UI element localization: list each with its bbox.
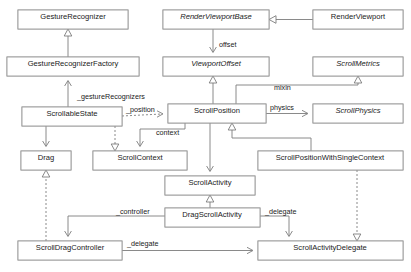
edge-scrollablestate-to-drag	[43, 126, 50, 147]
edge-label-physics: physics	[270, 103, 294, 112]
class-label: ScrollPhysics	[335, 106, 380, 115]
class-label: ScrollContext	[117, 153, 163, 162]
edge-label-delegate-drag: _delegate	[264, 207, 297, 216]
class-label: RenderViewportBase	[180, 12, 252, 21]
edge-scrollposition-to-scrollactivity	[207, 123, 214, 172]
edge-spwsc-implements-delegate	[353, 170, 361, 241]
edge-label-position: _position	[125, 105, 155, 114]
class-label: GestureRecognizer	[40, 12, 106, 21]
class-box-scrollable-state[interactable]: ScrollableState	[22, 107, 122, 126]
class-box-gesture-recognizer[interactable]: GestureRecognizer	[18, 10, 128, 29]
class-box-viewport-offset[interactable]: ViewportOffset	[163, 57, 269, 76]
edge-factory-to-recognizer	[64, 29, 72, 57]
edge-label-delegate-controller: _delegate	[126, 239, 159, 248]
edge-dragscrollactivity-to-scrollactivity	[206, 195, 214, 208]
edge-scrollablestate-implements-scrollcontext	[111, 126, 119, 151]
class-label: ScrollMetrics	[336, 59, 380, 68]
class-box-scroll-position[interactable]: ScrollPosition	[168, 104, 266, 123]
class-box-scroll-physics[interactable]: ScrollPhysics	[313, 104, 403, 123]
edge-label-offset: offset	[219, 40, 236, 49]
class-label: GestureRecognizerFactory	[28, 59, 119, 68]
edge-base-to-viewportoffset	[210, 29, 217, 53]
edge-label-controller: _controller	[115, 207, 150, 216]
class-label: RenderViewport	[331, 12, 386, 21]
class-box-scroll-activity[interactable]: ScrollActivity	[165, 176, 255, 195]
class-label: Drag	[38, 153, 54, 162]
class-box-scroll-metrics[interactable]: ScrollMetrics	[313, 57, 403, 76]
edge-dragscrollactivity-to-delegate	[260, 216, 292, 237]
class-label: ScrollableState	[46, 109, 97, 118]
class-box-render-viewport[interactable]: RenderViewport	[313, 10, 403, 29]
class-label: ScrollDragController	[36, 243, 105, 252]
class-label: ScrollPositionWithSingleContext	[276, 153, 385, 162]
class-box-scroll-context[interactable]: ScrollContext	[93, 151, 187, 170]
class-box-gesture-recognizer-factory[interactable]: GestureRecognizerFactory	[7, 57, 139, 76]
class-label: ScrollActivityDelegate	[293, 243, 366, 252]
edge-scrolldragcontroller-implements-drag	[42, 170, 50, 241]
edge-renderviewport-to-base	[269, 16, 313, 24]
edge-label-gesture-recognizers: _gestureRecognizers	[76, 92, 145, 101]
edge-scrollposition-to-scrollmetrics	[236, 76, 362, 104]
diagram-canvas: offset mixin _gestureRecognizers _positi…	[0, 0, 411, 272]
edge-scrollablestate-to-factory	[65, 81, 72, 108]
edge-dragscrollactivity-to-controller	[65, 216, 165, 237]
class-label: DragScrollActivity	[182, 210, 242, 219]
class-label: ScrollPosition	[194, 106, 240, 115]
class-label: ViewportOffset	[191, 59, 242, 68]
class-box-render-viewport-base[interactable]: RenderViewportBase	[163, 10, 269, 29]
class-box-scroll-position-with-single-context[interactable]: ScrollPositionWithSingleContext	[258, 151, 403, 170]
classes-layer: GestureRecognizer RenderViewportBase Ren…	[7, 10, 403, 260]
edge-label-mixin: mixin	[274, 83, 291, 92]
class-box-scroll-activity-delegate[interactable]: ScrollActivityDelegate	[258, 241, 403, 260]
edge-spwsc-to-scrollposition	[228, 123, 311, 151]
edge-scrollposition-to-viewportoffset	[209, 76, 217, 104]
edge-scrolldragcontroller-to-delegate	[122, 247, 253, 253]
class-label: ScrollActivity	[188, 178, 231, 187]
class-box-drag-scroll-activity[interactable]: DragScrollActivity	[165, 208, 260, 227]
uml-class-diagram: offset mixin _gestureRecognizers _positi…	[0, 0, 411, 272]
class-box-scroll-drag-controller[interactable]: ScrollDragController	[18, 241, 122, 260]
class-box-drag[interactable]: Drag	[21, 151, 71, 170]
edge-label-context: context	[156, 128, 179, 137]
